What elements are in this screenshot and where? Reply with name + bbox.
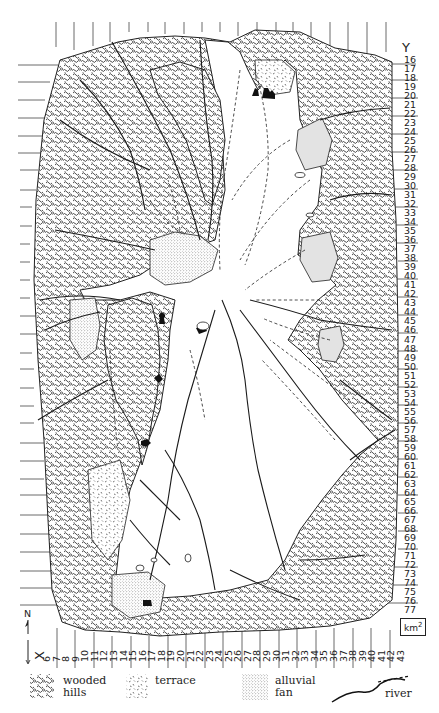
- legend-label: wooded hills: [63, 675, 106, 699]
- site-marker-bottom: [143, 600, 152, 606]
- alluvial-fan-bottom: [112, 572, 165, 618]
- north-arrow-icon: [25, 620, 30, 664]
- area-unit-label: km2: [400, 618, 426, 636]
- legend-item-terrace: terrace: [150, 675, 196, 687]
- y-axis-labels: 1617181920212223242526272829303132333435…: [404, 54, 416, 615]
- y-axis-title: Y: [401, 40, 410, 55]
- legend-label: river: [385, 688, 412, 700]
- legend-item-river: river: [380, 688, 412, 700]
- north-label: N: [24, 608, 31, 619]
- x-axis-label: 43: [395, 650, 406, 662]
- map-figure: Y 16171819202122232425262728293031323334…: [0, 0, 439, 713]
- legend-item-wooded-hills: wooded hills: [58, 675, 106, 699]
- legend-label: alluvial fan: [275, 675, 316, 699]
- x-axis-title: X: [32, 651, 47, 660]
- legend-label: terrace: [155, 675, 196, 687]
- legend: wooded hills terrace alluvial fan river: [0, 670, 439, 710]
- x-axis-labels: 6789101112131415161718192021222324252627…: [41, 650, 406, 662]
- legend-item-alluvial-fan: alluvial fan: [270, 675, 316, 699]
- y-axis-label: 77: [404, 604, 416, 615]
